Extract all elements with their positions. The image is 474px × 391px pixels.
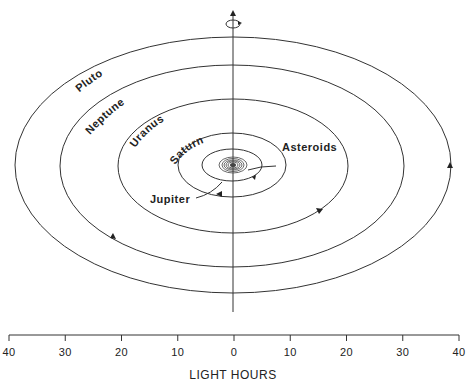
solar-system-diagram: Pluto Neptune Uranus Saturn Jupiter Aste…	[0, 0, 474, 391]
jupiter-label: Jupiter	[150, 193, 190, 205]
axis-title: LIGHT HOURS	[189, 368, 276, 382]
saturn-label: Saturn	[167, 133, 205, 166]
axis-tick-label: 30	[59, 346, 72, 358]
axis-tick-label: 10	[284, 346, 297, 358]
axis-tick-label: 40	[2, 346, 15, 358]
uranus-label: Uranus	[127, 112, 166, 149]
neptune-label: Neptune	[83, 95, 127, 136]
axis-tick-label: 40	[452, 346, 465, 358]
axis-tick-label: 20	[115, 346, 128, 358]
axis-tick-label: 10	[171, 346, 184, 358]
light-hours-axis: 40302010010203040 LIGHT HOURS	[2, 335, 465, 382]
asteroids-label: Asteroids	[282, 141, 337, 153]
axis-tick-label: 20	[340, 346, 353, 358]
axis-tick-label: 0	[231, 346, 238, 358]
axis-tick-label: 30	[396, 346, 409, 358]
pluto-label: Pluto	[73, 66, 105, 94]
rotation-arrow-icon	[226, 10, 242, 28]
